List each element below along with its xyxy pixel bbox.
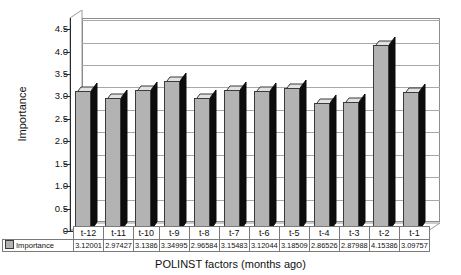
legend-label: Importance bbox=[16, 241, 54, 250]
bar-t-1 bbox=[403, 83, 419, 231]
bar-side-face bbox=[330, 94, 337, 231]
bar-t-2 bbox=[373, 36, 389, 231]
bar-side-face bbox=[240, 81, 247, 231]
table-cell-value: 3.15483 bbox=[219, 240, 249, 252]
table-cell-category: t-11 bbox=[104, 227, 134, 240]
bar-front-face bbox=[75, 91, 91, 231]
table-cell-value: 2.86526 bbox=[309, 240, 339, 252]
table-cell-category: t-2 bbox=[369, 227, 399, 240]
bar-t-12 bbox=[75, 82, 91, 231]
bar-front-face bbox=[314, 103, 330, 231]
bar-t-10 bbox=[135, 81, 151, 231]
bar-t-5 bbox=[284, 79, 300, 231]
bar-side-face bbox=[419, 83, 426, 231]
table-cell-category: t-7 bbox=[219, 227, 249, 240]
table-corner-cell bbox=[3, 227, 74, 240]
bar-front-face bbox=[373, 45, 389, 231]
bar-side-face bbox=[300, 79, 307, 231]
table-row-categories: t-12t-11t-10t-9t-8t-7t-6t-5t-4t-3t-2t-1 bbox=[3, 227, 430, 240]
bar-t-6 bbox=[254, 82, 270, 231]
bar-front-face bbox=[105, 98, 121, 231]
table-cell-value: 3.34995 bbox=[159, 240, 189, 252]
table-cell-value: 2.97427 bbox=[104, 240, 134, 252]
bar-side-face bbox=[121, 89, 128, 231]
bar-front-face bbox=[194, 98, 210, 231]
bar-t-9 bbox=[164, 72, 180, 231]
table-cell-category: t-6 bbox=[249, 227, 279, 240]
bar-side-face bbox=[389, 36, 396, 231]
bar-side-face bbox=[359, 93, 366, 231]
table-cell-category: t-8 bbox=[189, 227, 219, 240]
bar-side-face bbox=[151, 81, 158, 231]
bar-front-face bbox=[135, 90, 151, 231]
bar-t-11 bbox=[105, 89, 121, 231]
bar-front-face bbox=[224, 90, 240, 231]
table-cell-category: t-3 bbox=[339, 227, 369, 240]
legend-entry-importance: Importance bbox=[3, 240, 74, 252]
bar-side-face bbox=[91, 82, 98, 231]
table-cell-category: t-5 bbox=[279, 227, 309, 240]
table-cell-value: 2.96584 bbox=[189, 240, 219, 252]
bar-front-face bbox=[343, 102, 359, 231]
table-cell-value: 3.1386 bbox=[134, 240, 160, 252]
table-cell-category: t-10 bbox=[134, 227, 160, 240]
bar-t-3 bbox=[343, 93, 359, 231]
table-cell-value: 3.18509 bbox=[279, 240, 309, 252]
table-cell-value: 3.12044 bbox=[249, 240, 279, 252]
table-cell-value: 4.15386 bbox=[369, 240, 399, 252]
bar-front-face bbox=[164, 81, 180, 231]
importance-color-swatch bbox=[5, 240, 14, 249]
table-cell-value: 2.87988 bbox=[339, 240, 369, 252]
bar-t-4 bbox=[314, 94, 330, 231]
bar-side-face bbox=[180, 72, 187, 231]
bar-t-8 bbox=[194, 89, 210, 231]
table-cell-category: t-1 bbox=[399, 227, 429, 240]
bar-front-face bbox=[284, 88, 300, 231]
table-cell-category: t-12 bbox=[74, 227, 104, 240]
bar-side-face bbox=[270, 82, 277, 231]
x-axis-title: POLINST factors (months ago) bbox=[0, 258, 461, 270]
table-row-values: Importance 3.120012.974273.13863.349952.… bbox=[3, 240, 430, 252]
bar-front-face bbox=[403, 92, 419, 231]
data-table: t-12t-11t-10t-9t-8t-7t-6t-5t-4t-3t-2t-1 … bbox=[2, 226, 430, 252]
table-cell-category: t-9 bbox=[159, 227, 189, 240]
chart-container: Importance 4.54.03.53.02.52.01.51.00.50 … bbox=[0, 0, 461, 275]
bar-t-7 bbox=[224, 81, 240, 231]
table-cell-category: t-4 bbox=[309, 227, 339, 240]
bar-front-face bbox=[254, 91, 270, 231]
table-cell-value: 3.12001 bbox=[74, 240, 104, 252]
table-cell-value: 3.09757 bbox=[399, 240, 429, 252]
bar-side-face bbox=[210, 89, 217, 231]
